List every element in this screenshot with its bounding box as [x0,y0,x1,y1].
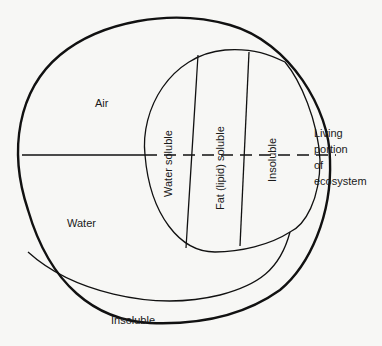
air-label: Air [95,97,109,109]
compartment-divider-1 [186,55,198,248]
living-portion-label-line-4: ecosystem [314,175,367,187]
water-soluble-label: Water soluble [162,130,174,197]
living-insoluble-label: Insoluble [266,138,278,182]
compartment-divider-2 [240,52,249,246]
fat-soluble-label: Fat (lipid) soluble [214,126,226,210]
living-portion-label-line-2: portion [314,143,348,155]
water-label: Water [67,217,96,229]
bottom-insoluble-label: Insoluble [111,314,155,326]
ecosystem-compartment-diagram: Air Water Insoluble Water soluble Fat (l… [0,0,382,346]
living-portion-label-line-3: of [314,159,324,171]
sediment-boundary [28,232,290,301]
living-portion-label-line-1: Living [314,127,343,139]
